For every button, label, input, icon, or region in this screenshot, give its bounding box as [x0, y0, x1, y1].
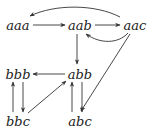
edge-aac-aab — [86, 33, 128, 41]
edge-bbc-abb — [28, 81, 66, 113]
node-abb: abb — [68, 67, 92, 82]
edge-aac-aaa — [30, 7, 120, 17]
node-bbb: bbb — [6, 67, 31, 82]
node-abc: abc — [68, 114, 92, 129]
node-bbc: bbc — [6, 114, 31, 129]
graph-canvas: aaa aab aac bbb abb bbc abc — [0, 0, 152, 136]
node-aaa: aaa — [6, 18, 29, 33]
node-aac: aac — [124, 18, 148, 33]
node-aab: aab — [68, 18, 92, 33]
